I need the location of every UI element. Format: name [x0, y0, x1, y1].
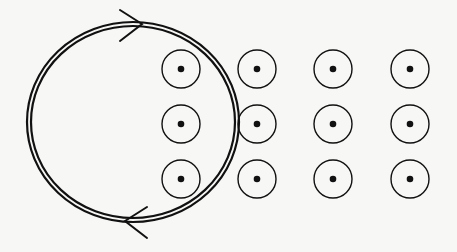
field-out-of-page-icon	[162, 105, 200, 143]
current-loop	[27, 22, 239, 222]
loop-inner-wire	[31, 26, 235, 218]
field-out-of-page-icon	[391, 105, 429, 143]
loop-outer-wire	[27, 22, 239, 222]
field-loop-diagram	[0, 0, 457, 252]
field-out-of-page-icon	[162, 160, 200, 198]
field-out-of-page-icon	[314, 105, 352, 143]
field-out-of-page-icon	[162, 50, 200, 88]
magnetic-field-grid	[162, 50, 429, 198]
field-out-of-page-icon	[391, 160, 429, 198]
field-out-of-page-icon	[314, 160, 352, 198]
field-out-of-page-icon	[238, 160, 276, 198]
field-out-of-page-icon	[391, 50, 429, 88]
field-out-of-page-icon	[238, 105, 276, 143]
current-direction-arrows	[120, 10, 147, 238]
field-out-of-page-icon	[238, 50, 276, 88]
field-out-of-page-icon	[314, 50, 352, 88]
